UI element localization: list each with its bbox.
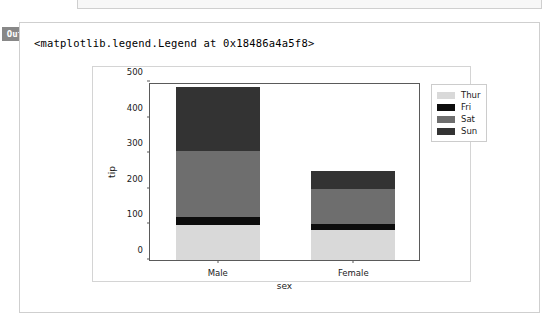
legend-item: Fri xyxy=(437,101,480,113)
bar-segment xyxy=(176,217,260,225)
legend-label: Thur xyxy=(461,90,480,100)
x-axis-tick-mark xyxy=(353,260,354,263)
x-axis-tick-mark xyxy=(217,260,218,263)
y-axis-tick-label: 300 xyxy=(127,138,150,148)
legend-item: Thur xyxy=(437,89,480,101)
legend-item: Sat xyxy=(437,113,480,125)
bar-segment xyxy=(176,87,260,151)
y-axis-tick-mark xyxy=(147,81,150,82)
bar-stack xyxy=(311,82,395,260)
legend-swatch-icon xyxy=(437,92,455,99)
legend-label: Sat xyxy=(461,114,475,124)
x-axis-label: sex xyxy=(277,281,292,291)
y-axis-tick-mark xyxy=(147,223,150,224)
bar-segment xyxy=(311,171,395,189)
bar-segment xyxy=(311,224,395,229)
matplotlib-figure: 0100200300400500MaleFemale tip sex ThurF… xyxy=(92,66,471,282)
y-axis-tick-mark xyxy=(147,259,150,260)
legend-label: Fri xyxy=(461,102,471,112)
y-axis-tick-mark xyxy=(147,152,150,153)
bar-segment xyxy=(311,230,395,260)
y-axis-tick-label: 0 xyxy=(138,245,150,255)
plot-area: 0100200300400500MaleFemale xyxy=(150,84,419,260)
notebook-cell-top-strip xyxy=(77,0,542,9)
output-repr-text: <matplotlib.legend.Legend at 0x18486a4a5… xyxy=(34,37,314,49)
y-axis-tick-label: 400 xyxy=(127,103,150,113)
y-axis-label: tip xyxy=(107,166,117,178)
bar-segment xyxy=(176,151,260,217)
bar-segment xyxy=(311,189,395,225)
y-axis-tick-label: 100 xyxy=(127,209,150,219)
legend-swatch-icon xyxy=(437,104,455,111)
bar-stack xyxy=(176,82,260,260)
output-cell: <matplotlib.legend.Legend at 0x18486a4a5… xyxy=(19,22,540,313)
legend-label: Sun xyxy=(461,126,477,136)
y-axis-tick-label: 500 xyxy=(127,67,150,77)
y-axis-tick-label: 200 xyxy=(127,174,150,184)
screenshot-root: Out <matplotlib.legend.Legend at 0x18486… xyxy=(0,0,542,315)
legend-swatch-icon xyxy=(437,128,455,135)
bar-segment xyxy=(176,225,260,260)
legend-item: Sun xyxy=(437,125,480,137)
y-axis-tick-mark xyxy=(147,116,150,117)
chart-axes: 0100200300400500MaleFemale tip sex xyxy=(149,83,420,261)
chart-legend: ThurFriSatSun xyxy=(431,84,487,142)
y-axis-tick-mark xyxy=(147,187,150,188)
legend-swatch-icon xyxy=(437,116,455,123)
